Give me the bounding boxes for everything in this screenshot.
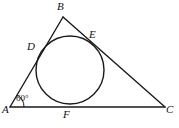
tangent-point-label-f: F	[63, 109, 70, 120]
tangent-point-label-d: D	[27, 41, 35, 52]
angle-measure-label-a: 60°	[16, 94, 29, 103]
inscribed-circle	[36, 36, 104, 104]
geometry-diagram-svg	[0, 0, 179, 128]
triangle-side-bc	[63, 17, 165, 107]
tangent-point-label-e: E	[89, 29, 96, 40]
vertex-label-a: A	[2, 104, 9, 115]
vertex-label-c: C	[166, 104, 173, 115]
vertex-label-b: B	[57, 1, 64, 12]
geometry-figure: A B C D E F 60°	[0, 0, 179, 128]
